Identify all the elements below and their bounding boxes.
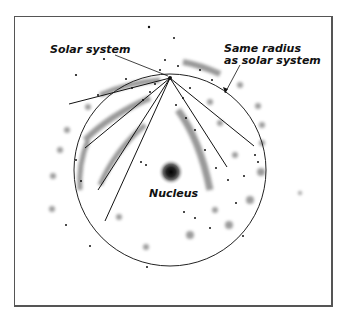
nucleus-blob	[158, 159, 184, 185]
spiral-arms	[49, 62, 302, 250]
solar-system-pointer	[115, 55, 168, 76]
label-same-radius-line2: as solar system	[224, 55, 321, 67]
solar-system-marker	[168, 76, 172, 80]
label-solar-system: Solar system	[50, 44, 130, 56]
label-nucleus: Nucleus	[149, 188, 198, 200]
